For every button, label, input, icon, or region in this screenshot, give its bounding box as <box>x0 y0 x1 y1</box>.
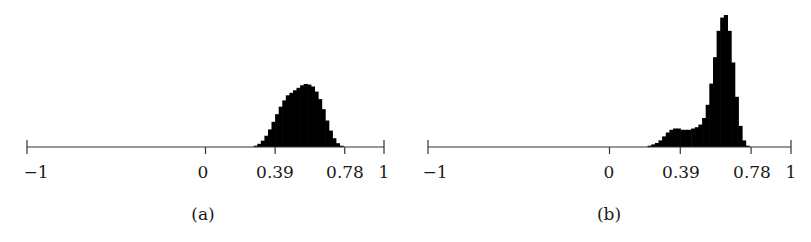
histogram-bar <box>709 84 713 147</box>
histogram-bar <box>307 85 311 147</box>
histogram-bar <box>279 107 283 147</box>
histogram-panel-b: −1 0 0.39 0.78 1 (b) <box>405 0 811 242</box>
histogram-bar <box>706 105 710 147</box>
histogram-bar <box>717 31 721 147</box>
histogram-bar <box>728 31 732 147</box>
histogram-bar <box>272 122 276 147</box>
histogram-bar <box>702 118 706 147</box>
histogram-bar <box>684 130 688 147</box>
histogram-bar <box>264 136 268 147</box>
tick-label-0-39: 0.39 <box>662 164 700 181</box>
histogram-bar <box>275 114 279 147</box>
tick-label-minus-one: −1 <box>23 164 48 181</box>
histogram-bar <box>325 121 329 148</box>
histogram-bar <box>289 93 293 147</box>
tick-label-0-39: 0.39 <box>256 164 294 181</box>
histogram-bar <box>724 15 728 147</box>
histogram-bar <box>322 109 326 147</box>
histogram-bar <box>695 127 699 147</box>
tick-label-zero: 0 <box>198 164 209 181</box>
histogram-bar <box>680 130 684 147</box>
histogram-bar <box>311 87 315 148</box>
histogram-bar <box>677 129 681 148</box>
histogram-bar <box>669 130 673 147</box>
histogram-bar <box>297 88 301 147</box>
histogram-bar <box>738 126 742 147</box>
histogram-bar <box>673 129 677 148</box>
tick-label-one: 1 <box>786 164 797 181</box>
histogram-bar <box>659 140 663 147</box>
tick-label-zero: 0 <box>604 164 615 181</box>
histogram-bar <box>332 138 336 147</box>
tick-label-0-78: 0.78 <box>326 164 364 181</box>
histogram-bar <box>286 95 290 147</box>
histogram-bar <box>688 130 692 147</box>
histogram-bar <box>666 133 670 148</box>
histogram-bar <box>735 97 739 147</box>
caption-b: (b) <box>597 206 621 223</box>
caption-a: (a) <box>191 206 214 223</box>
histogram-bar <box>261 141 265 147</box>
histogram-bar <box>691 129 695 148</box>
histogram-bar <box>698 125 702 147</box>
tick-label-one: 1 <box>379 164 390 181</box>
histogram-bar <box>731 63 735 148</box>
tick-label-minus-one: −1 <box>422 164 447 181</box>
histogram-bar <box>662 136 666 147</box>
histogram-bar <box>713 57 717 147</box>
histogram-bar <box>314 92 318 147</box>
histogram-panel-a: −1 0 0.39 0.78 1 (a) <box>0 0 405 242</box>
histogram-bar <box>720 18 724 147</box>
tick-label-0-78: 0.78 <box>733 164 771 181</box>
histogram-bar <box>300 85 304 147</box>
histogram-bar <box>742 140 746 147</box>
